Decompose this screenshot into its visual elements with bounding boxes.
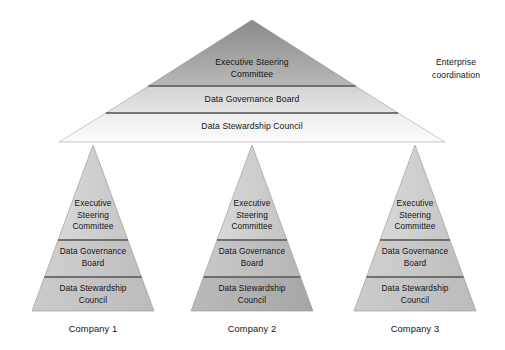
enterprise-tier-2-label: Data Governance Board [172,93,332,105]
company-1-tier-3-label: Data Stewardship Council [43,283,143,306]
company-2-tier-2-label: Data Governance Board [202,246,302,269]
company-3-tier-1-label: Executive Steering Committee [375,198,455,233]
company-1-caption: Company 1 [43,323,143,335]
company-3-tier-2-label: Data Governance Board [365,246,465,269]
company-1-tier-1-label: Executive Steering Committee [53,198,133,233]
enterprise-tier-1-label: Executive Steering Committee [172,56,332,80]
company-3-caption: Company 3 [365,323,465,335]
company-1-tier-2-label: Data Governance Board [43,246,143,269]
enterprise-coordination-annotation: Enterprise coordination [411,56,501,82]
company-2-tier-1-label: Executive Steering Committee [212,198,292,233]
company-2-tier-3-label: Data Stewardship Council [202,283,302,306]
company-3-tier-3-label: Data Stewardship Council [365,283,465,306]
diagram-canvas: Executive Steering Committee Data Govern… [0,0,505,350]
company-2-caption: Company 2 [202,323,302,335]
enterprise-tier-3-label: Data Stewardship Council [172,120,332,132]
